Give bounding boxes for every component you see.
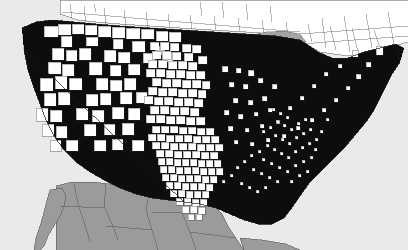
choropleth-map-figure bbox=[0, 0, 408, 250]
